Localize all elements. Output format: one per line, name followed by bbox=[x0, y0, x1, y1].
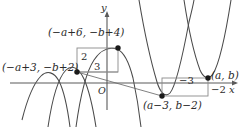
origin-label: O bbox=[98, 86, 106, 96]
point-label-right-upper: (a, b) bbox=[211, 70, 239, 81]
point-marker-right-upper bbox=[205, 75, 210, 80]
left-box-horizontal-label: 3 bbox=[94, 62, 100, 72]
point-marker-right-lower bbox=[159, 93, 164, 98]
y-axis-label: y bbox=[101, 3, 107, 13]
math-figure: (−a+6, −b+4) (−a+3, −b+2) (a, b) (a−3, b… bbox=[0, 0, 244, 127]
right-box-horizontal-label: −3 bbox=[179, 76, 194, 86]
point-label-left-lower: (−a+3, −b+2) bbox=[2, 62, 78, 73]
point-marker-left-upper bbox=[115, 45, 120, 50]
x-axis-label: x bbox=[229, 85, 235, 95]
connector-segment bbox=[77, 72, 162, 96]
left-arc-3 bbox=[22, 73, 70, 127]
point-label-left-upper: (−a+6, −b+4) bbox=[48, 27, 124, 38]
left-box-vertical-label: 2 bbox=[81, 52, 87, 62]
right-box-vertical-label: −2 bbox=[211, 85, 226, 95]
point-label-right-lower: (a−3, b−2) bbox=[143, 100, 202, 111]
